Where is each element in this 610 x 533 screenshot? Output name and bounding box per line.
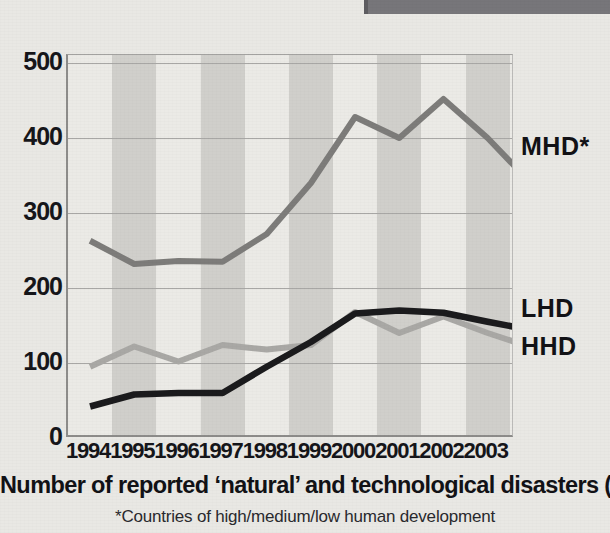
y-tick-400: 400 [0,124,62,149]
series-lines [68,55,513,437]
chart-footnote: *Countries of high/medium/low human deve… [0,508,610,533]
x-tick-2003: 2003 [456,440,516,462]
y-tick-100: 100 [0,349,62,374]
series-line-mhd [90,99,513,264]
series-line-hhd [90,312,513,367]
chart-caption: Number of reported ‘natural’ and technol… [0,474,610,498]
y-tick-500: 500 [0,49,62,74]
y-tick-300: 300 [0,199,62,224]
scanned-page: 0100200300400500 19941995199619971998199… [0,0,610,533]
y-tick-200: 200 [0,274,62,299]
y-tick-0: 0 [0,424,62,449]
plot-area [66,54,513,437]
series-label-lhd: LHD [521,296,574,321]
series-label-mhd: MHD* [521,134,590,159]
series-label-hhd: HHD [521,334,577,359]
series-line-lhd [90,311,513,407]
line-chart: 0100200300400500 19941995199619971998199… [0,0,610,533]
